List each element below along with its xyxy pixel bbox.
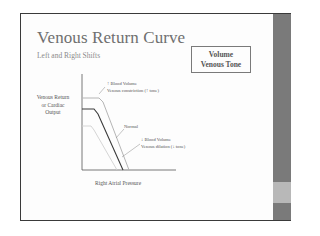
venous-return-chart xyxy=(21,14,271,220)
annotation-normal: Normal xyxy=(124,124,138,131)
annotation-increased-volume: ↑ Blood Volume Venous constriction (↑ to… xyxy=(107,81,159,94)
leader-line-increased xyxy=(99,87,105,94)
annotation-decreased-volume: ↓ Blood Volume Venous dilation (↓ tone) xyxy=(141,137,185,150)
annotation-normal-line-1: Normal xyxy=(124,124,138,131)
annotation-decreased-line-2: Venous dilation (↓ tone) xyxy=(141,144,185,151)
leader-line-decreased xyxy=(122,144,140,157)
side-accent-bar xyxy=(273,14,291,220)
slide: Venous Return Curve Left and Right Shift… xyxy=(20,13,291,221)
leader-line-normal xyxy=(116,129,124,138)
curve-decreased-volume xyxy=(82,126,117,170)
annotation-increased-line-2: Venous constriction (↑ tone) xyxy=(107,88,159,95)
side-accent-bar-highlight xyxy=(273,182,291,203)
